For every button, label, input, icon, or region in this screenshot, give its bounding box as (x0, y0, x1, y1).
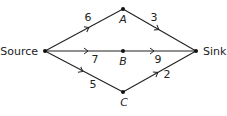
weight-source-b: 7 (92, 53, 99, 66)
node-label-sink: Sink (203, 45, 227, 58)
weight-source-a: 6 (85, 11, 92, 24)
node-a (121, 7, 125, 11)
node-label-a: A (118, 13, 127, 26)
weight-c-sink: 2 (164, 68, 171, 81)
node-label-source: Source (0, 45, 38, 58)
node-sink (194, 49, 198, 53)
edge-a-sink (123, 9, 196, 51)
weight-a-sink: 3 (151, 11, 158, 24)
weight-source-c: 5 (90, 78, 97, 91)
weight-b-sink: 9 (155, 53, 162, 66)
node-source (43, 49, 47, 53)
flow-network-diagram: Source A B C Sink 6 3 7 9 5 2 (0, 0, 227, 116)
node-b (121, 49, 125, 53)
node-c (121, 90, 125, 94)
node-label-b: B (119, 55, 127, 68)
node-label-c: C (120, 96, 128, 109)
edge-source-c (45, 51, 123, 92)
